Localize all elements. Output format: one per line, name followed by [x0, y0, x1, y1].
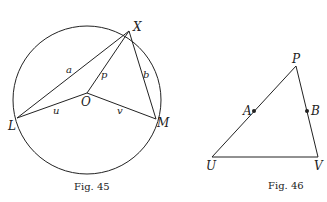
point-label-v: V: [314, 159, 324, 173]
point-label-m: M: [156, 116, 170, 130]
point-label-p: P: [291, 52, 301, 66]
segment-label-v: v: [117, 105, 123, 116]
figures-canvas: X L M O a b p u v Fig. 45 P A B U V Fig.…: [0, 0, 327, 202]
point-label-l: L: [7, 119, 16, 133]
figure-45: X L M O a b p u v Fig. 45: [7, 20, 170, 192]
segment-p: [87, 31, 129, 93]
point-label-b: B: [310, 104, 320, 118]
figure-46: P A B U V Fig. 46: [206, 52, 324, 191]
segment-u: [17, 93, 87, 118]
segment-a: [17, 31, 129, 118]
point-label-x: X: [132, 20, 142, 34]
segment-label-b: b: [143, 69, 149, 80]
segment-label-u: u: [53, 105, 59, 116]
caption-fig-46: Fig. 46: [268, 180, 304, 191]
caption-fig-45: Fig. 45: [74, 181, 110, 192]
segment-label-a: a: [66, 64, 72, 75]
point-b-dot: [305, 109, 309, 113]
segment-label-p: p: [101, 69, 108, 80]
point-a-dot: [252, 109, 256, 113]
point-label-u: U: [206, 159, 217, 173]
point-label-o: O: [81, 95, 91, 109]
point-label-a: A: [242, 104, 252, 118]
